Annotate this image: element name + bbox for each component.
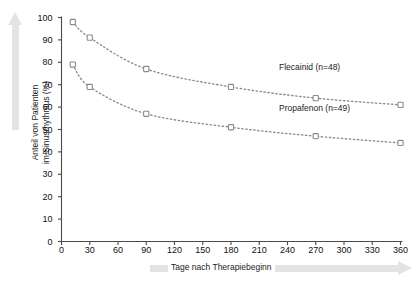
data-point-marker — [87, 35, 92, 40]
y-axis-tick-label: 90 — [31, 35, 53, 45]
data-point-marker — [144, 111, 149, 116]
data-point-marker — [228, 84, 233, 89]
series-line-0 — [73, 22, 401, 105]
y-axis-tick-label: 40 — [31, 147, 53, 157]
series-label-1: Propafenon (n=49) — [278, 103, 351, 113]
y-axis-tick-label: 80 — [31, 57, 53, 67]
data-point-marker — [87, 84, 92, 89]
x-axis-tick-label: 300 — [331, 245, 357, 255]
y-axis-tick-label: 60 — [31, 102, 53, 112]
data-point-marker — [228, 125, 233, 130]
data-point-marker — [398, 140, 403, 145]
x-axis-tick-label: 120 — [162, 245, 188, 255]
plot-svg — [0, 0, 418, 282]
x-axis-tick-label: 210 — [246, 245, 272, 255]
x-axis-tick-label: 360 — [388, 245, 414, 255]
data-point-marker — [313, 96, 318, 101]
x-axis-tick-label: 180 — [218, 245, 244, 255]
x-axis-tick-label: 270 — [303, 245, 329, 255]
x-axis-tick-label: 240 — [275, 245, 301, 255]
y-axis-tick-label: 20 — [31, 192, 53, 202]
y-axis-tick-label: 30 — [31, 169, 53, 179]
y-axis-tick-label: 50 — [31, 125, 53, 135]
y-axis-tick-label: 10 — [31, 214, 53, 224]
data-point-marker — [70, 62, 75, 67]
x-axis-tick-label: 150 — [190, 245, 216, 255]
data-point-marker — [313, 134, 318, 139]
x-axis-tick-label: 330 — [359, 245, 385, 255]
data-point-marker — [144, 66, 149, 71]
plot-area: 0102030405060708090100030609012015018021… — [0, 0, 418, 282]
x-axis-tick-label: 60 — [105, 245, 131, 255]
series-line-1 — [73, 65, 401, 143]
y-axis-tick-label: 70 — [31, 80, 53, 90]
series-label-0: Flecainid (n=48) — [278, 62, 341, 72]
y-axis-tick-label: 100 — [31, 13, 53, 23]
data-point-marker — [70, 19, 75, 24]
chart-figure: Anteil von Patienten im Sinusrhythmus (%… — [0, 0, 418, 282]
data-point-marker — [398, 102, 403, 107]
x-axis-tick-label: 30 — [77, 245, 103, 255]
x-axis-tick-label: 0 — [49, 245, 75, 255]
x-axis-tick-label: 90 — [133, 245, 159, 255]
